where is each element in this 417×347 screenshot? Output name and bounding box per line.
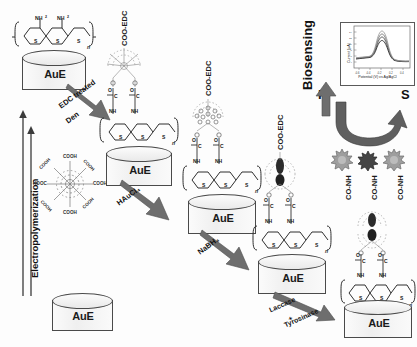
electrode-top-ellipse bbox=[188, 194, 256, 210]
svg-text:NH: NH bbox=[35, 15, 43, 21]
svg-text:2: 2 bbox=[45, 15, 47, 19]
dendrimer-edc-activated bbox=[98, 44, 150, 90]
enzyme-blob-center bbox=[357, 150, 379, 172]
arrow-haucl4 bbox=[120, 178, 178, 226]
svg-text:S: S bbox=[56, 38, 60, 44]
svg-text:O: O bbox=[378, 252, 382, 258]
svg-text:S: S bbox=[245, 182, 249, 188]
electrode-top-ellipse bbox=[52, 293, 113, 309]
enzyme-blob-left bbox=[330, 148, 354, 172]
svg-text:COOH: COOH bbox=[63, 210, 77, 215]
svg-text:C: C bbox=[270, 203, 274, 209]
dendrimer-gold-salt bbox=[184, 95, 232, 141]
chart-x-axis-label: Potential (V) vs Ag/AgCl bbox=[341, 75, 414, 79]
svg-text:C: C bbox=[136, 93, 140, 99]
electrode-top-ellipse bbox=[22, 50, 86, 66]
inset-voltammogram-chart: -0.6-0.4 -0.20.2 0.4 141210 864 Potentia… bbox=[340, 22, 415, 86]
label-co-nh-left: CO-NH bbox=[344, 175, 353, 200]
chart-y-axis-label: Current (µA) bbox=[347, 43, 351, 63]
svg-text:C: C bbox=[384, 258, 388, 264]
svg-text:O: O bbox=[286, 197, 290, 203]
svg-text:S: S bbox=[141, 134, 145, 140]
polymer-backbone-stage2: S S S NH2 NH2 n bbox=[14, 14, 94, 54]
svg-text:S: S bbox=[272, 242, 276, 248]
svg-text:C: C bbox=[362, 258, 366, 264]
svg-text:O: O bbox=[214, 137, 218, 143]
svg-text:2: 2 bbox=[67, 15, 69, 19]
svg-text:S: S bbox=[202, 182, 206, 188]
label-biosensing: Biosensing bbox=[300, 20, 315, 90]
electrode-bare-gold: AuE bbox=[52, 293, 114, 339]
electrode-top-ellipse bbox=[106, 146, 172, 162]
svg-text:12: 12 bbox=[349, 37, 352, 40]
svg-text:S: S bbox=[162, 134, 166, 140]
electrode-top-ellipse bbox=[344, 300, 412, 315]
svg-text:C: C bbox=[198, 143, 202, 149]
label-substrate-S: S bbox=[401, 87, 410, 102]
arrow-biosensing bbox=[316, 82, 338, 118]
svg-text:NH: NH bbox=[57, 15, 65, 21]
electrode-label: AuE bbox=[22, 68, 88, 80]
electrode-label: AuE bbox=[52, 310, 114, 322]
svg-text:S: S bbox=[224, 182, 228, 188]
arrow-nabh4 bbox=[200, 228, 258, 276]
svg-text:14: 14 bbox=[349, 31, 352, 34]
svg-text:COOH: COOH bbox=[39, 199, 53, 213]
svg-text:C: C bbox=[114, 93, 118, 99]
svg-text:O: O bbox=[192, 137, 196, 143]
svg-text:COOH: COOH bbox=[81, 196, 95, 210]
svg-text:C: C bbox=[292, 203, 296, 209]
svg-text:COOH: COOH bbox=[63, 154, 77, 159]
polymer-backbone-stage4: SS S n bbox=[182, 160, 262, 198]
label-co-nh-center: CO-NH bbox=[370, 175, 379, 200]
svg-text:O: O bbox=[130, 87, 134, 93]
label-co-nh-right: CO-NH bbox=[396, 175, 405, 200]
polymer-backbone-stage3: SS S n bbox=[99, 112, 179, 150]
svg-text:O: O bbox=[108, 87, 112, 93]
polymer-backbone-stage5: SS S n bbox=[252, 220, 332, 258]
electrode-top-ellipse bbox=[258, 254, 326, 270]
svg-text:S: S bbox=[119, 134, 123, 140]
electrode-final-biosensor: AuE bbox=[344, 300, 414, 344]
svg-text:HOOC: HOOC bbox=[33, 181, 47, 186]
svg-text:S: S bbox=[77, 38, 81, 44]
substrate-product-cycle-arrow bbox=[330, 100, 412, 150]
svg-text:S: S bbox=[294, 242, 298, 248]
svg-text:S: S bbox=[34, 38, 38, 44]
svg-text:COOH: COOH bbox=[38, 156, 52, 170]
label-coo-edc-stage5: COO-EDC bbox=[276, 115, 285, 150]
enzyme-blob-right bbox=[382, 148, 406, 172]
electrode-label: AuE bbox=[188, 212, 258, 224]
reaction-scheme-diagram: AuE Electropolymerization COO bbox=[0, 0, 417, 347]
svg-text:C: C bbox=[220, 143, 224, 149]
electrode-label: AuE bbox=[344, 317, 414, 329]
electrode-label: AuE bbox=[106, 164, 174, 176]
label-coo-edc-stage3: COO-EDC bbox=[120, 11, 129, 46]
svg-text:O: O bbox=[264, 197, 268, 203]
dendrimer-free-carboxyl: COOH COOH HOOC COOH COOH COOH COOH COOH bbox=[33, 152, 107, 216]
svg-text:O: O bbox=[356, 252, 360, 258]
label-coo-edc-stage4: COO-EDC bbox=[204, 61, 213, 96]
svg-text:S: S bbox=[315, 242, 319, 248]
electrode-label: AuE bbox=[258, 272, 328, 284]
dendrimer-gold-nanoparticle bbox=[256, 150, 304, 202]
